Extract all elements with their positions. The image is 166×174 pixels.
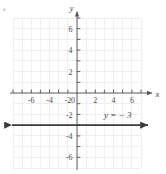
y-tick-labels: 6 4 2 -2 -4 -6 xyxy=(66,25,73,163)
y-axis-ticks xyxy=(77,18,80,157)
y-tick-label: -6 xyxy=(66,153,73,162)
x-tick-label: 6 xyxy=(130,96,134,105)
x-axis-label: x xyxy=(155,89,160,99)
x-tick-label: 4 xyxy=(112,96,116,105)
y-tick-label: 6 xyxy=(69,25,73,34)
y-tick-label: 4 xyxy=(69,46,73,55)
y-tick-label: -2 xyxy=(66,111,73,120)
y-axis-label: y xyxy=(69,3,74,13)
x-tick-label: -6 xyxy=(28,96,35,105)
equation-annotation: y = − 3 xyxy=(103,110,132,120)
y-tick-label: 2 xyxy=(69,68,73,77)
origin-label: 0 xyxy=(71,96,75,105)
corner-artifact xyxy=(3,8,6,11)
y-tick-label: -4 xyxy=(66,132,73,141)
x-tick-label: 2 xyxy=(93,96,97,105)
x-tick-label: -4 xyxy=(46,96,53,105)
coordinate-plane-svg: -6 -4 -2 0 2 4 6 6 4 2 -2 -4 -6 y x y = … xyxy=(0,0,166,174)
graph-figure: -6 -4 -2 0 2 4 6 6 4 2 -2 -4 -6 y x y = … xyxy=(0,0,166,174)
x-tick-labels: -6 -4 -2 0 2 4 6 xyxy=(28,96,134,105)
